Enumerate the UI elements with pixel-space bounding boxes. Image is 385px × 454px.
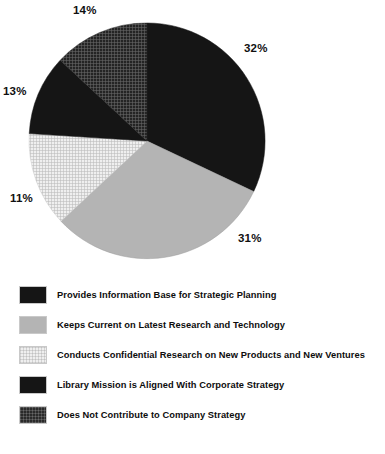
- legend-item-label: Does Not Contribute to Company Strategy: [57, 410, 245, 420]
- pie-label-13-percent: 13%: [3, 85, 27, 97]
- legend-swatch-icon: [19, 406, 47, 424]
- legend-item: Library Mission is Aligned With Corporat…: [0, 370, 385, 400]
- pie-label-31-percent: 31%: [238, 232, 262, 244]
- pie-label-11-percent: 11%: [10, 192, 33, 204]
- chart-legend: Provides Information Base for Strategic …: [0, 280, 385, 430]
- legend-item: Does Not Contribute to Company Strategy: [0, 400, 385, 430]
- legend-item: Conducts Confidential Research on New Pr…: [0, 340, 385, 370]
- pie-label-14-percent: 14%: [73, 4, 97, 16]
- pie-chart-graphic: [0, 0, 385, 276]
- legend-item-label: Keeps Current on Latest Research and Tec…: [57, 320, 285, 330]
- legend-item: Keeps Current on Latest Research and Tec…: [0, 310, 385, 340]
- legend-item-label: Provides Information Base for Strategic …: [57, 290, 276, 300]
- pie-label-32-percent: 32%: [244, 42, 268, 54]
- legend-swatch-icon: [19, 316, 47, 334]
- legend-item-label: Conducts Confidential Research on New Pr…: [57, 350, 365, 360]
- legend-item: Provides Information Base for Strategic …: [0, 280, 385, 310]
- legend-item-label: Library Mission is Aligned With Corporat…: [57, 380, 284, 390]
- pie-chart-figure: 32% 31% 11% 13% 14%: [0, 0, 385, 276]
- legend-swatch-icon: [19, 346, 47, 364]
- legend-swatch-icon: [19, 286, 47, 304]
- legend-swatch-icon: [19, 376, 47, 394]
